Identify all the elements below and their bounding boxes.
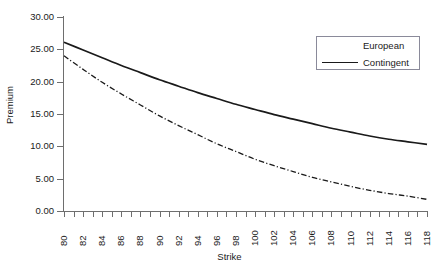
legend-label-european: European <box>363 40 404 51</box>
legend-swatch-solid-icon <box>322 62 358 63</box>
x-axis-title: Strike <box>0 251 443 262</box>
legend-item-contingent: Contingent <box>317 54 421 71</box>
series-line-european <box>64 56 427 200</box>
chart-legend: European Contingent <box>316 36 420 70</box>
x-axis-title-text: Strike <box>217 251 241 262</box>
legend-label-contingent: Contingent <box>363 57 409 68</box>
legend-item-european: European <box>317 37 421 54</box>
chart-figure: 30.0025.0020.0015.0010.005.000.00 808284… <box>0 0 443 271</box>
y-axis-title: Premium <box>4 86 15 124</box>
